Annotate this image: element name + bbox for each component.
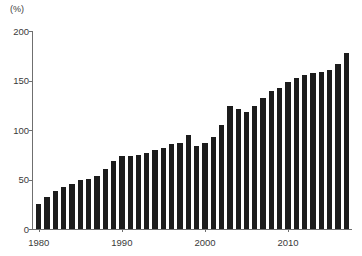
bar	[111, 161, 116, 229]
bar	[252, 106, 257, 229]
bar	[119, 156, 124, 229]
bar-chart-figure: (%) 050100150200 1980199020002010	[0, 0, 362, 256]
bar	[152, 150, 157, 229]
x-tick-mark	[39, 229, 40, 232]
bar	[327, 70, 332, 229]
y-tick-label: 150	[3, 76, 29, 85]
bar	[236, 109, 241, 229]
bar	[310, 73, 315, 229]
bar	[219, 125, 224, 229]
bar	[211, 137, 216, 229]
bar	[86, 179, 91, 229]
bar	[269, 91, 274, 229]
bar	[335, 64, 340, 229]
x-tick-mark	[288, 229, 289, 232]
bar	[244, 112, 249, 229]
bar	[61, 187, 66, 229]
bar	[194, 146, 199, 229]
bar	[69, 184, 74, 229]
bar	[294, 78, 299, 229]
bar	[302, 75, 307, 229]
x-tick-label: 2000	[194, 237, 215, 248]
bar	[53, 191, 58, 229]
bar	[103, 169, 108, 229]
x-axis-line	[32, 229, 352, 230]
bar	[260, 98, 265, 229]
bar	[202, 143, 207, 229]
y-tick-label: 50	[3, 175, 29, 184]
bar	[128, 156, 133, 229]
y-tick-label: 100	[3, 126, 29, 135]
bar	[277, 88, 282, 229]
bar	[94, 176, 99, 229]
bar	[36, 204, 41, 229]
y-axis-tick-group: 050100150200	[0, 0, 29, 256]
x-tick-label: 2010	[277, 237, 298, 248]
plot-area	[33, 31, 352, 229]
x-tick-mark	[122, 229, 123, 232]
bar	[78, 180, 83, 230]
x-tick-mark	[205, 229, 206, 232]
bar	[319, 72, 324, 229]
bar	[177, 143, 182, 229]
bar	[44, 197, 49, 229]
bar	[344, 53, 349, 229]
x-tick-label: 1980	[28, 237, 49, 248]
bar	[161, 148, 166, 229]
bar	[186, 135, 191, 229]
y-tick-label: 200	[3, 27, 29, 36]
bar	[227, 106, 232, 229]
bar	[169, 144, 174, 229]
bar	[136, 155, 141, 229]
x-tick-label: 1990	[111, 237, 132, 248]
bar	[285, 82, 290, 229]
bar	[144, 153, 149, 229]
x-axis-tick-group: 1980199020002010	[0, 233, 362, 253]
